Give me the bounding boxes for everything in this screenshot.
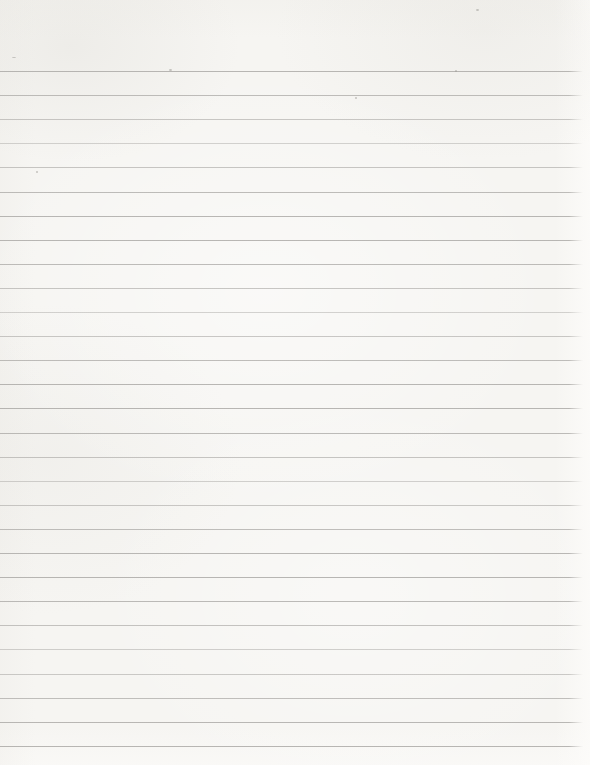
ruled-line	[0, 312, 583, 313]
ruled-line	[0, 698, 583, 699]
ruled-line	[0, 264, 583, 265]
ruled-line	[0, 505, 583, 506]
ruled-line	[0, 71, 583, 72]
scan-speck	[12, 57, 16, 58]
ruled-line	[0, 167, 583, 168]
ruled-line	[0, 553, 583, 554]
ruled-line	[0, 216, 583, 217]
scan-speck	[476, 9, 479, 11]
ruled-line	[0, 601, 583, 602]
ruled-line	[0, 408, 583, 409]
ruled-line	[0, 288, 583, 289]
ruled-line	[0, 192, 583, 193]
ruled-line	[0, 529, 583, 530]
ruled-line	[0, 95, 583, 96]
ruled-line	[0, 119, 583, 120]
ruled-line	[0, 384, 583, 385]
ruled-line	[0, 746, 583, 747]
scan-speck	[355, 97, 357, 99]
ruled-line	[0, 360, 583, 361]
ruled-line	[0, 433, 583, 434]
ruled-line	[0, 481, 583, 482]
ruled-line	[0, 722, 583, 723]
ruled-line	[0, 577, 583, 578]
scan-speck	[169, 69, 172, 71]
ruled-line	[0, 649, 583, 650]
scan-speck	[36, 171, 38, 173]
notebook-paper-page	[0, 0, 590, 765]
ruled-line	[0, 336, 583, 337]
ruled-line	[0, 457, 583, 458]
ruled-line	[0, 674, 583, 675]
ruled-line	[0, 143, 583, 144]
scan-speck	[455, 70, 457, 72]
ruled-line	[0, 625, 583, 626]
ruled-line	[0, 240, 583, 241]
